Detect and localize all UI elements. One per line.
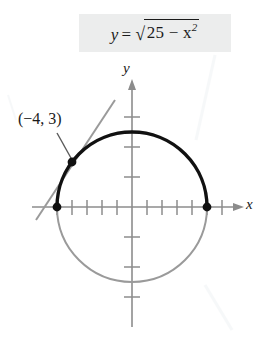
figure-container: y=√25 − x2 y x (−4, 3): [0, 0, 266, 346]
y-axis: [128, 79, 136, 327]
equation-equals-sign: =: [118, 25, 134, 44]
radicand-exponent: 2: [192, 21, 198, 33]
annotation-leader-line: [57, 133, 71, 158]
point-coordinate-text: (−4, 3): [18, 110, 62, 127]
scan-watermark: [8, 55, 232, 330]
x-axis-label: x: [246, 196, 253, 213]
point-marker-minus5-0: [53, 203, 62, 212]
point-marker-5-0: [203, 203, 212, 212]
radicand: 25 − x2: [144, 19, 200, 43]
point-marker-minus4-3: [68, 158, 77, 167]
equation-box: y=√25 − x2: [79, 14, 231, 52]
radical-expression: √25 − x2: [134, 21, 199, 45]
point-coordinate-label: (−4, 3): [18, 110, 62, 128]
equation-text: y=√25 − x2: [111, 21, 200, 45]
x-axis: [32, 203, 244, 211]
y-axis-label: y: [123, 60, 130, 77]
radicand-main: 25 − x: [147, 23, 192, 42]
